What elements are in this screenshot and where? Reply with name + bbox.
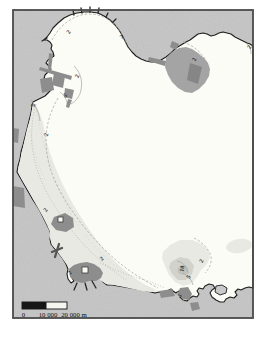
scale-label-0: 0 <box>22 311 26 318</box>
southwest-town-square <box>58 217 63 222</box>
map-figure: 2225522222221055 0 10 000 20 000 m <box>0 0 266 339</box>
contour-label: 10 <box>179 265 186 272</box>
scale-label-20000m: 20 000 m <box>61 311 87 318</box>
inlet-island <box>215 285 227 295</box>
west-edge-patch <box>13 186 25 208</box>
scale-bar-filled-segment <box>22 302 47 309</box>
scale-label-10000: 10 000 <box>39 311 58 318</box>
south-harbor-square <box>82 267 88 273</box>
